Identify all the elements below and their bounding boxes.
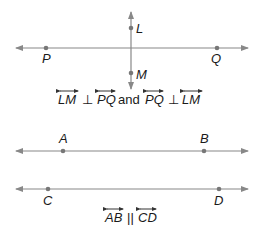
svg-text:and: and	[118, 92, 140, 107]
svg-text:CD: CD	[138, 210, 157, 225]
label-q: Q	[211, 51, 221, 66]
point-d	[217, 187, 222, 192]
svg-text:PQ: PQ	[97, 92, 116, 107]
point-b	[202, 149, 207, 154]
caption-parallel: AB || CD	[104, 209, 157, 225]
label-l: L	[136, 21, 143, 36]
point-q	[215, 46, 220, 51]
point-a	[61, 149, 66, 154]
point-l	[129, 26, 134, 31]
label-b: B	[200, 131, 209, 146]
label-c: C	[43, 193, 53, 208]
caption-perpendicular: LM ⊥ PQ and PQ ⊥ LM	[58, 91, 202, 107]
svg-text:||: ||	[127, 210, 134, 225]
label-p: P	[42, 51, 51, 66]
label-a: A	[58, 131, 68, 146]
label-d: D	[214, 193, 223, 208]
svg-text:⊥: ⊥	[168, 92, 179, 107]
label-m: M	[136, 67, 147, 82]
svg-text:⊥: ⊥	[82, 92, 93, 107]
svg-text:PQ: PQ	[145, 92, 164, 107]
geometry-diagram: L M P Q LM ⊥ PQ and PQ ⊥ LM A B C D AB |…	[0, 0, 266, 239]
point-m	[129, 71, 134, 76]
svg-text:LM: LM	[58, 92, 76, 107]
svg-text:LM: LM	[182, 92, 200, 107]
svg-text:AB: AB	[104, 210, 123, 225]
point-p	[44, 46, 49, 51]
point-c	[46, 187, 51, 192]
